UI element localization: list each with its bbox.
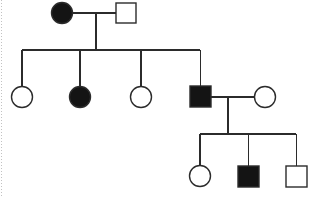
individual-III-3-unaffected-male[interactable]	[286, 166, 307, 187]
union-1-connectors	[22, 13, 201, 87]
individual-II-4-affected-male[interactable]	[190, 86, 211, 107]
union-2-connectors	[200, 97, 297, 166]
individual-I-2-unaffected-male[interactable]	[116, 3, 136, 23]
individual-III-1-unaffected-female[interactable]	[190, 166, 211, 187]
individual-II-3-unaffected-female[interactable]	[131, 87, 152, 108]
generation-3-symbols	[190, 166, 308, 188]
scan-edge-artifact	[1, 0, 2, 197]
individual-I-1-affected-female[interactable]	[52, 3, 73, 24]
individual-II-5-unaffected-female[interactable]	[255, 87, 276, 108]
individual-II-2-affected-female[interactable]	[70, 87, 91, 108]
individual-III-2-affected-male[interactable]	[238, 166, 259, 187]
individual-II-1-unaffected-female[interactable]	[12, 87, 33, 108]
pedigree-chart	[0, 0, 319, 197]
pedigree-canvas	[0, 0, 319, 197]
